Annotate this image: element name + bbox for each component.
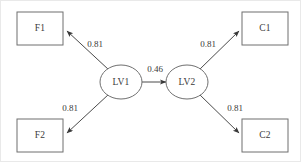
node-f1[interactable]: F1 bbox=[17, 12, 63, 45]
node-f2[interactable]: F2 bbox=[17, 119, 63, 152]
edge-lv1-to-lv2: 0.46 bbox=[141, 64, 166, 82]
edge-label-lv1-f1: 0.81 bbox=[87, 39, 103, 49]
edge-lv1-to-f1: 0.81 bbox=[67, 31, 109, 70]
node-lv1[interactable]: LV1 bbox=[100, 65, 142, 99]
edge-label-lv1-f2: 0.81 bbox=[62, 103, 78, 113]
edge-line-lv1-f1 bbox=[67, 31, 109, 70]
edge-line-lv1-f2 bbox=[67, 94, 109, 133]
edge-label-lv2-c1: 0.81 bbox=[200, 39, 216, 49]
node-label-f2: F2 bbox=[35, 130, 45, 140]
edge-label-lv2-c2: 0.81 bbox=[227, 103, 243, 113]
node-label-lv2: LV2 bbox=[178, 77, 195, 87]
path-diagram-svg: 0.81 0.81 0.46 0.81 0.81 F1 F2 bbox=[1, 1, 301, 162]
node-c1[interactable]: C1 bbox=[242, 12, 288, 45]
node-c2[interactable]: C2 bbox=[242, 119, 288, 152]
path-diagram-canvas: 0.81 0.81 0.46 0.81 0.81 F1 F2 bbox=[0, 0, 301, 162]
edge-line-lv2-c1 bbox=[199, 31, 239, 70]
node-lv2[interactable]: LV2 bbox=[166, 65, 208, 99]
edge-lv2-to-c2: 0.81 bbox=[199, 94, 243, 133]
edge-label-lv1-lv2: 0.46 bbox=[147, 64, 163, 74]
edge-lv2-to-c1: 0.81 bbox=[199, 31, 239, 70]
node-label-lv1: LV1 bbox=[112, 77, 129, 87]
node-label-f1: F1 bbox=[35, 23, 45, 33]
edge-line-lv2-c2 bbox=[199, 94, 239, 133]
node-label-c1: C1 bbox=[259, 23, 271, 33]
edge-lv1-to-f2: 0.81 bbox=[62, 94, 109, 133]
node-label-c2: C2 bbox=[259, 130, 271, 140]
